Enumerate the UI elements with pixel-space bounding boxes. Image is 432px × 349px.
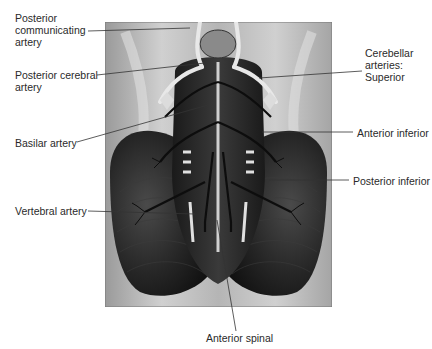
label-posterior-cerebral-artery: Posterior cerebral artery — [15, 69, 98, 93]
label-posterior-communicating-artery: Posterior communicating artery — [15, 12, 86, 48]
label-anterior-spinal: Anterior spinal — [206, 332, 273, 344]
brainstem-cerebellum-drawing — [105, 22, 332, 307]
label-basilar-artery: Basilar artery — [15, 137, 77, 149]
label-anterior-inferior: Anterior inferior — [357, 127, 429, 139]
anatomical-illustration — [105, 22, 332, 307]
label-posterior-inferior: Posterior inferior — [353, 175, 430, 187]
label-vertebral-artery: Vertebral artery — [15, 205, 87, 217]
label-cerebellar-arteries-superior: Cerebellar arteries: Superior — [365, 47, 413, 83]
